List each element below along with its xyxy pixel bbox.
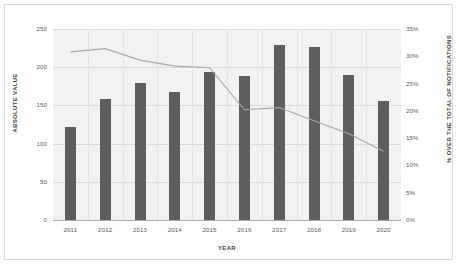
y-axis-right-tick-label: 15% bbox=[406, 134, 432, 141]
y-axis-right-tick-label: 35% bbox=[406, 25, 432, 32]
x-axis-title: YEAR bbox=[53, 245, 401, 251]
x-axis-tick-label: 2014 bbox=[158, 226, 192, 233]
y-axis-left-title: ABSOLUTE VALUE bbox=[12, 63, 18, 143]
x-axis-tick-label: 2015 bbox=[193, 226, 227, 233]
x-axis-tick-label: 2012 bbox=[88, 226, 122, 233]
y-axis-right-tick-label: 5% bbox=[406, 189, 432, 196]
y-axis-left-tick-label: 50 bbox=[25, 178, 47, 185]
y-axis-right-tick-label: 30% bbox=[406, 52, 432, 59]
chart-frame: 050100150200250 0%5%10%15%20%25%30%35% A… bbox=[4, 4, 453, 260]
y-axis-left-tick-label: 0 bbox=[25, 216, 47, 223]
x-axis-tick-label: 2019 bbox=[332, 226, 366, 233]
y-axis-left-tick-label: 150 bbox=[25, 101, 47, 108]
y-axis-right-tick-label: 10% bbox=[406, 161, 432, 168]
y-axis-left-tick-label: 200 bbox=[25, 63, 47, 70]
x-axis-tick-label: 2016 bbox=[227, 226, 261, 233]
x-axis-line bbox=[53, 220, 401, 221]
line-series bbox=[53, 29, 401, 220]
x-axis-tick-label: 2018 bbox=[297, 226, 331, 233]
x-axis-tick-label: 2020 bbox=[367, 226, 401, 233]
y-axis-left-tick-label: 100 bbox=[25, 140, 47, 147]
y-axis-right-tick-label: 25% bbox=[406, 80, 432, 87]
y-axis-left-tick-label: 250 bbox=[25, 25, 47, 32]
y-axis-right-title: % OVER THE TOTAL OF NOTIFICATIONS bbox=[446, 43, 452, 163]
x-axis-tick-label: 2011 bbox=[53, 226, 87, 233]
line-path bbox=[70, 49, 383, 152]
y-axis-right-tick-label: 0% bbox=[406, 216, 432, 223]
x-axis-tick-label: 2017 bbox=[262, 226, 296, 233]
y-axis-right-tick-label: 20% bbox=[406, 107, 432, 114]
x-axis-tick-label: 2013 bbox=[123, 226, 157, 233]
